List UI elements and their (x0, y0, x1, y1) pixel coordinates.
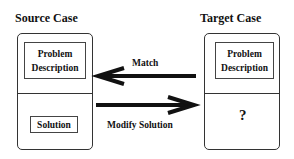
modify-solution-label: Modify Solution (107, 120, 173, 130)
arrows-layer (0, 0, 294, 159)
match-arrow-icon (98, 68, 196, 84)
modify-solution-arrow-icon (96, 97, 194, 113)
match-label: Match (132, 58, 158, 68)
